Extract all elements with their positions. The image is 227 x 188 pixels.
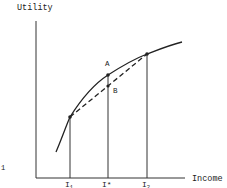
point-a: [106, 73, 110, 77]
point-b-label: B: [113, 87, 118, 95]
utility-curve: [56, 42, 182, 152]
point-a-label: A: [105, 60, 110, 68]
y-axis-label: Utility: [17, 3, 53, 13]
stray-mark: 1: [1, 164, 5, 172]
x-axis-label: Income: [192, 174, 223, 184]
tick-i1-label: I1: [65, 180, 74, 188]
tick-istar-label: I*: [102, 180, 112, 188]
utility-diagram: Utility Income A B I1 I* I2 1: [0, 0, 227, 188]
point-i2: [145, 52, 149, 56]
point-b: [106, 84, 109, 87]
tick-i2-label: I2: [142, 180, 150, 188]
point-i1: [68, 115, 72, 119]
